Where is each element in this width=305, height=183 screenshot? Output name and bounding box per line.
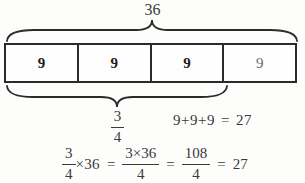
equals-sign: = [221, 112, 230, 128]
product-result: 27 [233, 156, 248, 173]
equals-sign: = [107, 156, 115, 173]
product-equation: 3 4 ×36 = 3×36 4 = 108 4 = 27 [62, 145, 248, 183]
fraction-denominator: 4 [65, 165, 73, 183]
fraction-numerator: 3 [62, 146, 76, 165]
fraction-numerator: 3 [111, 109, 125, 128]
fraction: 108 4 [182, 146, 211, 183]
top-brace [7, 20, 297, 41]
cell-value: 9 [256, 55, 264, 72]
equals-sign: = [217, 156, 225, 173]
bar-cell-2: 9 [77, 45, 150, 81]
sum-result: 27 [236, 112, 252, 128]
cell-value: 9 [38, 55, 46, 72]
fraction-numerator: 108 [182, 146, 211, 165]
bar-cell-1: 9 [6, 45, 77, 81]
equals-sign: = [166, 156, 174, 173]
cell-value: 9 [110, 55, 118, 72]
fraction-denominator: 4 [114, 128, 122, 146]
bar-cell-4: 9 [222, 45, 295, 81]
cell-value: 9 [183, 55, 191, 72]
bar-cell-3: 9 [150, 45, 223, 81]
fraction-three-fourths: 3 4 [97, 109, 138, 146]
total-label: 36 [0, 1, 305, 19]
fraction: 3×36 4 [122, 146, 159, 183]
fraction-denominator: 4 [137, 165, 145, 183]
bottom-brace [7, 86, 227, 107]
sum-equation: 9+9+9=27 [173, 112, 252, 129]
fraction: 3 4 [111, 109, 125, 146]
bar-model: 9 9 9 9 [4, 43, 297, 83]
sum-terms: 9+9+9 [173, 112, 215, 128]
fraction-numerator: 3×36 [122, 146, 159, 165]
times-term: ×36 [76, 156, 100, 173]
fraction: 3 4 [62, 146, 76, 183]
fraction-denominator: 4 [192, 165, 200, 183]
fraction-bar-model-figure: 36 9 9 9 9 3 4 9+9+9=27 3 4 ×36 = [0, 0, 305, 183]
